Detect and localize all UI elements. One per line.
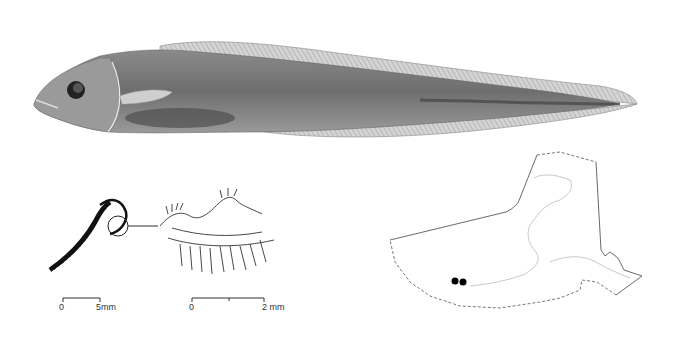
figure-canvas xyxy=(0,0,684,338)
map-boundary-dashed xyxy=(390,152,616,308)
belly-shadow xyxy=(125,108,235,128)
map-boundary-solid xyxy=(390,155,642,295)
scale-bar-5mm xyxy=(63,298,100,302)
record-dot xyxy=(460,279,467,286)
gill-detail-illustration xyxy=(160,188,274,274)
scale-bar-2-end: 2 mm xyxy=(262,302,285,312)
scale-bar-2-zero: 0 xyxy=(189,302,194,312)
fish-illustration xyxy=(34,42,637,137)
distribution-map xyxy=(390,152,642,308)
scale-bar-2mm xyxy=(192,298,264,302)
gill-arch-illustration xyxy=(50,200,158,272)
scale-bar-1-zero: 0 xyxy=(59,302,64,312)
coastline xyxy=(470,175,630,286)
record-dot xyxy=(452,278,459,285)
scale-bar-1-end: 5mm xyxy=(96,302,116,312)
